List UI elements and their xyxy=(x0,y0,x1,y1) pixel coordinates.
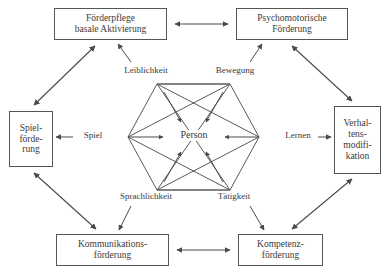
hexagon-label-leiblichkeit: Leiblichkeit xyxy=(110,66,182,75)
connector-lower-left-diagonal xyxy=(34,173,96,229)
node-label-kommunikationsfoerderung: Kommunikations- förderung xyxy=(76,239,149,261)
node-label-spielfoerderung: Spiel- förde- rung xyxy=(17,123,44,156)
arrow-taetigkeit-to-kompetenz xyxy=(250,206,264,230)
node-box-kompetenzfoerderung[interactable]: Kompetenz- förderung xyxy=(238,234,323,266)
node-box-kommunikationsfoerderung[interactable]: Kommunikations- förderung xyxy=(56,234,169,266)
hexagon-label-sprachlichkeit: Sprachlichkeit xyxy=(106,192,186,201)
hex-chord-r-bl xyxy=(157,137,259,190)
connector-lower-right-diagonal xyxy=(292,179,352,229)
hexagon-center-label-person: Person xyxy=(168,130,220,141)
node-label-psychomotorische-foerderung: Psychomotorische Förderung xyxy=(255,13,329,35)
hex-chord-l-br xyxy=(128,137,230,190)
hexagon-label-taetigkeit: Tätigkeit xyxy=(206,192,262,201)
node-box-spielfoerderung[interactable]: Spiel- förde- rung xyxy=(9,111,53,167)
diagram-canvas: Förderpflege basale Aktivierung Psychomo… xyxy=(0,0,388,274)
connector-upper-left-diagonal xyxy=(34,46,95,105)
arrow-bewegung-to-psychomotorische xyxy=(250,44,262,62)
node-label-verhaltensmodifikation: Verhal- tens- modifi- kation xyxy=(341,118,374,162)
arrow-leiblichkeit-to-foerderpflege xyxy=(118,44,131,62)
node-box-psychomotorische-foerderung[interactable]: Psychomotorische Förderung xyxy=(236,8,348,40)
node-box-verhaltensmodifikation[interactable]: Verhal- tens- modifi- kation xyxy=(334,106,381,174)
node-box-foerderpflege[interactable]: Förderpflege basale Aktivierung xyxy=(54,8,167,40)
hexagon-label-spiel: Spiel xyxy=(76,131,110,140)
arrow-sprachlichkeit-to-kommunikation xyxy=(119,206,131,230)
node-label-foerderpflege: Förderpflege basale Aktivierung xyxy=(73,13,149,35)
connector-upper-right-diagonal xyxy=(292,46,352,101)
hexagon-label-bewegung: Bewegung xyxy=(204,66,266,75)
hexagon-label-lernen: Lernen xyxy=(278,131,318,140)
node-label-kompetenzfoerderung: Kompetenz- förderung xyxy=(255,239,306,261)
